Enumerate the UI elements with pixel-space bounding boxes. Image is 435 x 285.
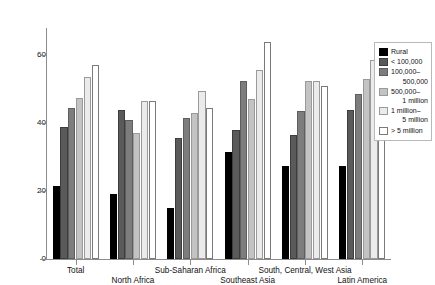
bar <box>125 120 132 259</box>
bar <box>76 98 83 259</box>
bar-chart: Percentage Births Attended 0204060 Total… <box>0 0 435 285</box>
x-tick-label: Total <box>67 266 84 275</box>
legend-label: < 100,000 <box>391 57 428 66</box>
legend-label: 1 million– <box>391 106 428 115</box>
x-tick-label: Sub-Saharan Africa <box>155 266 226 275</box>
bar <box>256 70 263 259</box>
legend-swatch <box>379 48 388 56</box>
legend-label: 500,000– <box>391 87 428 96</box>
y-tick-mark <box>40 191 46 192</box>
x-tick-mark <box>248 259 249 265</box>
bar <box>68 108 75 259</box>
legend-item[interactable]: Rural <box>379 47 428 56</box>
bar <box>297 111 304 259</box>
legend-label: 100,000– <box>391 67 428 76</box>
bar <box>92 65 99 259</box>
bar <box>363 79 370 259</box>
x-tick-mark <box>190 259 191 265</box>
bar <box>133 133 140 259</box>
bar <box>282 166 289 259</box>
bar <box>305 81 312 259</box>
x-tick-mark <box>305 259 306 265</box>
y-tick-mark <box>40 259 46 260</box>
bar <box>240 81 247 259</box>
bar <box>84 77 91 259</box>
x-axis-line <box>46 259 391 260</box>
legend-label: Rural <box>391 47 428 56</box>
y-tick-mark <box>40 55 46 56</box>
bar <box>347 110 354 259</box>
legend-label-cont: 5 million <box>391 115 428 124</box>
bar <box>167 208 174 259</box>
x-tick-mark <box>76 259 77 265</box>
bar-group <box>219 28 276 259</box>
legend-item[interactable]: > 5 million <box>379 126 428 135</box>
bar-group <box>276 28 333 259</box>
y-tick-mark <box>40 123 46 124</box>
bar <box>53 186 60 259</box>
bar <box>339 166 346 259</box>
bar <box>321 86 328 259</box>
plot-area <box>47 28 391 259</box>
legend-item[interactable]: 100,000–500,000 <box>379 67 428 85</box>
bar <box>191 113 198 259</box>
legend-label-cont: 1 million <box>391 96 428 105</box>
bar <box>225 152 232 259</box>
x-tick-label: Southeast Asia <box>220 276 275 285</box>
chart-legend: Rural< 100,000100,000–500,000500,000–1 m… <box>374 42 432 141</box>
legend-item[interactable]: < 100,000 <box>379 57 428 66</box>
x-tick-label: Latin America <box>338 276 388 285</box>
legend-swatch <box>379 88 388 96</box>
bar <box>175 138 182 259</box>
legend-swatch <box>379 58 388 66</box>
bar <box>110 194 117 259</box>
legend-item[interactable]: 500,000–1 million <box>379 87 428 105</box>
bar-group <box>162 28 219 259</box>
x-tick-label: North Africa <box>112 276 155 285</box>
x-tick-mark <box>362 259 363 265</box>
bar <box>264 42 271 259</box>
legend-label-cont: 500,000 <box>391 77 428 86</box>
bar <box>118 110 125 259</box>
bar <box>206 108 213 259</box>
bar <box>232 130 239 259</box>
x-tick-label: South, Central, West Asia <box>258 266 351 275</box>
bar <box>198 91 205 259</box>
legend-item[interactable]: 1 million–5 million <box>379 106 428 124</box>
bar <box>60 127 67 259</box>
bar <box>355 94 362 259</box>
bar <box>141 101 148 259</box>
legend-swatch <box>379 107 388 115</box>
legend-label: > 5 million <box>391 126 428 135</box>
bar <box>183 118 190 259</box>
bar <box>313 81 320 259</box>
bar <box>149 101 156 259</box>
x-tick-mark <box>133 259 134 265</box>
bar <box>290 135 297 259</box>
legend-swatch <box>379 68 388 76</box>
legend-swatch <box>379 127 388 135</box>
bar-group <box>47 28 104 259</box>
bar-group <box>104 28 161 259</box>
bar <box>248 99 255 259</box>
